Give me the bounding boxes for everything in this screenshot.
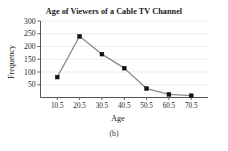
data-point-marker	[167, 93, 171, 97]
data-point-marker	[78, 34, 82, 38]
x-tick-label: 20.5	[73, 102, 86, 110]
data-point-marker	[145, 87, 149, 91]
x-axis-title: Age	[111, 114, 125, 123]
figure-caption: (b)	[0, 129, 228, 138]
data-point-marker	[55, 75, 59, 79]
data-point-marker	[122, 66, 126, 70]
x-tick-label: 30.5	[96, 102, 109, 110]
y-tick-label: 250	[24, 29, 36, 38]
data-point-marker	[189, 94, 193, 98]
gridlines-group	[41, 21, 209, 85]
data-point-marker	[100, 52, 104, 56]
data-line	[57, 36, 191, 95]
x-tick-label: 60.5	[163, 102, 176, 110]
y-axis-tick-labels: 30025020015010050	[24, 17, 36, 90]
x-tick-label: 10.5	[51, 102, 64, 110]
data-line-group	[57, 36, 191, 95]
y-tick-label: 50	[28, 80, 36, 89]
x-axis-tick-labels: 10.520.530.540.550.560.570.5	[51, 102, 198, 110]
y-tick-label: 300	[24, 17, 36, 26]
y-tick-label: 100	[24, 68, 36, 77]
y-axis-title: Frequency	[7, 45, 16, 79]
x-tick-label: 70.5	[185, 102, 198, 110]
y-tick-label: 200	[24, 42, 36, 51]
figure-container: Age of Viewers of a Cable TV Channel 300…	[0, 0, 228, 151]
x-tick-label: 50.5	[140, 102, 153, 110]
x-tick-label: 40.5	[118, 102, 131, 110]
y-tick-label: 150	[24, 55, 36, 64]
